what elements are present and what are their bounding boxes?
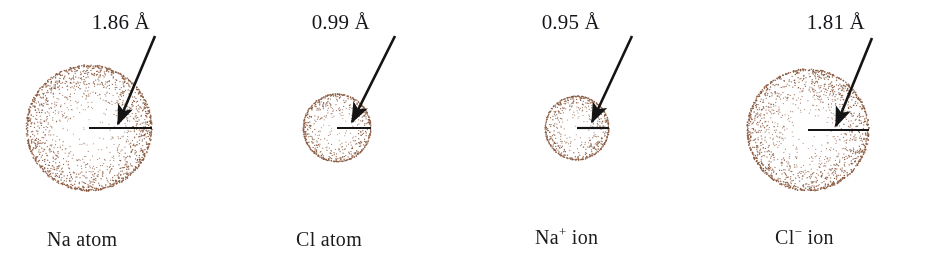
radius-measurement-na-ion: 0.95 Å (542, 10, 600, 35)
species-label-cl-ion: Cl− ion (775, 226, 834, 249)
species-symbol-cl-ion: Cl (775, 226, 795, 248)
atom-ion-size-diagram: 1.86 ÅNa atom0.99 ÅCl atom0.95 ÅNa+ ion1… (0, 0, 944, 271)
species-kind-cl-ion: ion (802, 226, 834, 248)
species-label-na-ion: Na+ ion (535, 226, 598, 249)
species-charge-na-ion: + (559, 224, 567, 239)
species-label-cl-atom: Cl atom (296, 228, 362, 251)
species-symbol-na-ion: Na (535, 226, 559, 248)
radius-measurement-na-atom: 1.86 Å (92, 10, 150, 35)
species-charge-cl-ion: − (795, 224, 803, 239)
species-kind-na-ion: ion (567, 226, 599, 248)
radius-measurement-cl-ion: 1.81 Å (807, 10, 865, 35)
species-label-na-atom: Na atom (47, 228, 117, 251)
radius-measurement-cl-atom: 0.99 Å (312, 10, 370, 35)
